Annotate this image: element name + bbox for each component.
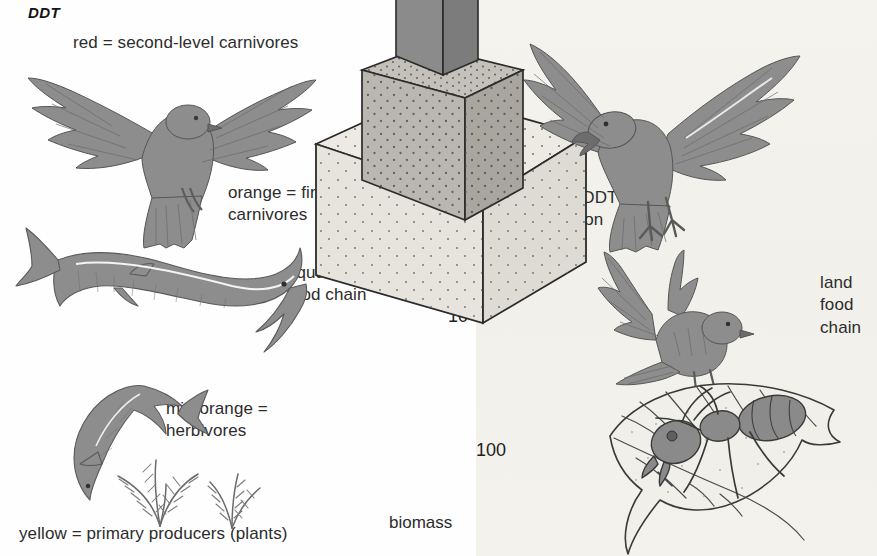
ddt-biomass-pyramid-figure: DDT red = second-level carnivores orange… <box>0 0 877 556</box>
osprey-illustration <box>16 48 316 248</box>
predatory-fish-illustration <box>18 222 318 382</box>
aquatic-plants-illustration <box>82 440 282 530</box>
eagle-illustration <box>500 22 800 252</box>
ant-on-leaf-illustration <box>596 380 866 556</box>
annotation-land-food-chain: land food chain <box>820 272 861 339</box>
figure-title: DDT <box>28 4 60 21</box>
